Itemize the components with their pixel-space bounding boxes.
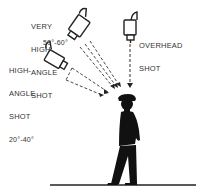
- arrowhead-group: [99, 89, 109, 97]
- high-angle-label: HIGH- ANGLE SHOT 20°-40°: [9, 52, 35, 158]
- very-high-angle-sightlines: [80, 41, 119, 87]
- overhead-camera-icon: [124, 12, 137, 43]
- high-angle-degrees: 20°-40°: [9, 136, 35, 144]
- very-high-angle-camera-icon: [65, 7, 95, 42]
- high-angle-sightlines: [66, 68, 108, 95]
- label-line: OVERHEAD: [139, 42, 183, 50]
- camera-angles-diagram: VERY HIGH- ANGLE SHOT 50°-60° HIGH- ANGL…: [0, 0, 203, 192]
- overhead-label: OVERHEAD SHOT: [139, 27, 183, 88]
- label-line: SHOT: [139, 65, 183, 73]
- label-line: ANGLE: [9, 90, 35, 98]
- arrowhead-group: [110, 82, 121, 89]
- arrowhead-icon: [127, 83, 133, 88]
- label-line: HIGH-: [9, 67, 35, 75]
- label-line: VERY: [31, 23, 57, 31]
- person-silhouette-icon: [107, 94, 140, 185]
- label-line: SHOT: [9, 113, 35, 121]
- very-high-angle-degrees: 50°-60°: [43, 39, 68, 47]
